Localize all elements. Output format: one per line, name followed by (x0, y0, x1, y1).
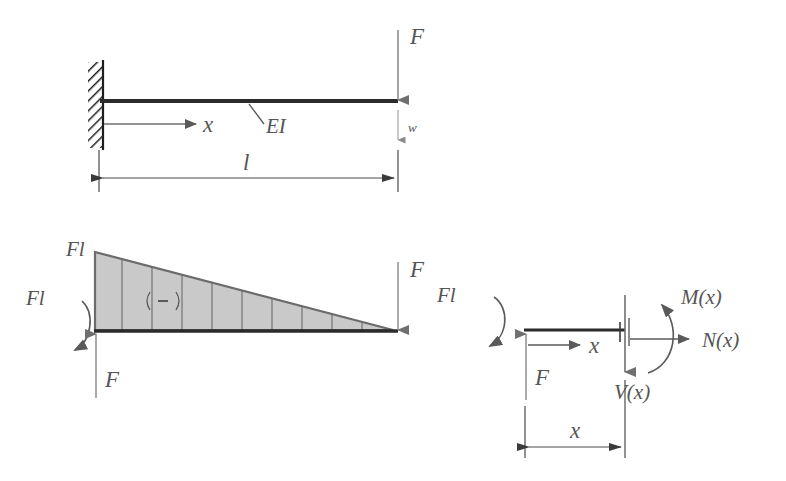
moment-reaction-label: Fl (25, 286, 45, 310)
fbd-moment-reaction-label: Fl (436, 283, 456, 307)
engineering-figure: x EI F w l (0, 0, 786, 481)
reaction-force-label: F (104, 367, 120, 392)
beam-diagram-svg: x EI F w l (0, 0, 786, 481)
fbd-reaction-force-label: F (534, 365, 550, 390)
cantilever-beam-model: x EI F w l (88, 24, 425, 192)
fbd-moment-reaction-arc (490, 297, 505, 346)
fixed-support-hatch (88, 60, 103, 150)
bending-moment-diagram: Fl Fl F F (25, 237, 425, 398)
moment-diagram-load-label: F (409, 257, 425, 282)
span-length-label: l (243, 150, 249, 175)
normal-force-label: N(x) (701, 328, 739, 352)
shear-force-label: V(x) (614, 380, 650, 404)
fbd-x-dimension-label: x (569, 418, 581, 443)
bending-moment-label: M(x) (680, 285, 722, 309)
fbd-x-axis-label: x (588, 333, 600, 358)
ei-leader-line (249, 104, 264, 124)
stiffness-label: EI (265, 114, 287, 138)
x-axis-label: x (202, 112, 214, 137)
moment-reaction-arc (75, 301, 90, 350)
deflection-label: w (408, 120, 417, 135)
load-force-label: F (409, 24, 425, 49)
free-body-section-diagram: Fl F x M(x) N(x) (436, 283, 739, 458)
moment-peak-label: Fl (65, 237, 85, 261)
moment-area-fill (95, 252, 393, 330)
